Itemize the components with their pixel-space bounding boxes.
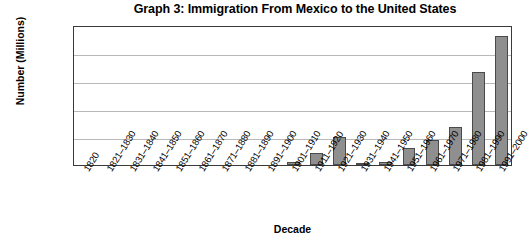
x-axis-title: Decade [73,223,512,235]
chart-title: Graph 3: Immigration From Mexico to the … [70,2,520,16]
x-axis-ticks: 18201821–18301831–18401841–18501851–1860… [73,168,512,220]
y-axis-title: Number (Millions) [14,1,26,121]
